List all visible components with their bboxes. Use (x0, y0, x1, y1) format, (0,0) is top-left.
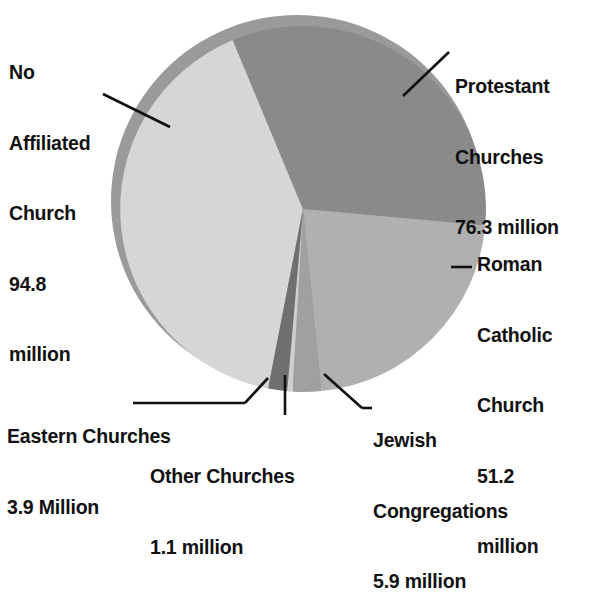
label-jewish-congregations: Jewish Congregations 5.9 million (373, 382, 508, 592)
label-value: 3.9 Million (7, 496, 171, 520)
label-line: Affiliated (9, 132, 90, 156)
pie-slices (120, 26, 486, 392)
label-line: No (9, 61, 90, 85)
label-line: Eastern Churches (7, 425, 171, 449)
label-line: Jewish (373, 429, 508, 453)
label-line: Catholic (477, 324, 552, 348)
label-line: Church (9, 202, 90, 226)
label-eastern-churches: Eastern Churches 3.9 Million (7, 378, 171, 566)
label-value: 5.9 million (373, 570, 508, 592)
label-line: Other Churches (150, 465, 295, 489)
label-line: Roman (477, 253, 552, 277)
label-value: 1.1 million (150, 536, 295, 560)
label-unit: million (9, 343, 90, 367)
label-line: Churches (455, 146, 559, 170)
label-other-churches: Other Churches 1.1 million (150, 418, 295, 592)
label-value: 94.8 (9, 273, 90, 297)
label-line: Congregations (373, 500, 508, 524)
label-line: Protestant (455, 75, 559, 99)
label-no-affiliated-church: No Affiliated Church 94.8 million (9, 14, 90, 414)
